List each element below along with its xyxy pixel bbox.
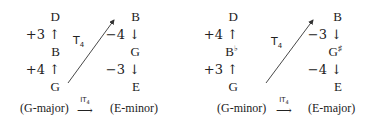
transform-label-sub: 4 xyxy=(80,41,84,49)
note-letter: G xyxy=(329,44,338,59)
transform-label-text: T xyxy=(271,35,278,48)
transform-label: T4 xyxy=(271,35,282,50)
operator-arrow: IT4 ⟶ xyxy=(72,96,98,115)
note-e: E xyxy=(132,78,140,96)
operator-arrow: IT4 ⟶ xyxy=(271,96,297,115)
note-g: G xyxy=(131,43,140,61)
target-chord-column: B −4 ↓ G −3 ↓ E xyxy=(108,8,140,96)
interval-down: −4 ↓ xyxy=(308,61,342,79)
diagram-g-major-to-e-minor: D +3 ↑ B +4 ↑ G T4 B −4 ↓ G −3 ↓ E (G-ma… xyxy=(0,0,180,127)
note-b: B xyxy=(131,8,140,26)
long-right-arrow-icon: ⟶ xyxy=(271,106,297,115)
transform-label-text: T xyxy=(73,34,80,47)
note-e: E xyxy=(334,78,342,96)
long-right-arrow-icon: ⟶ xyxy=(72,106,98,115)
transform-label-sub: 4 xyxy=(278,42,282,50)
source-key-caption: (G-minor) xyxy=(217,101,266,116)
diagram-g-minor-to-e-major: D +4 ↑ B♭ +3 ↑ G T4 B −3 ↓ G♯ −4 ↓ E (G-… xyxy=(180,0,367,127)
transform-label: T4 xyxy=(73,34,84,49)
target-key-caption: (E-minor) xyxy=(110,101,158,116)
note-b: B xyxy=(333,8,342,26)
target-chord-column: B −3 ↓ G♯ −4 ↓ E xyxy=(306,8,342,96)
target-key-caption: (E-major) xyxy=(308,101,355,116)
sharp-icon: ♯ xyxy=(338,44,342,53)
interval-down: −3 ↓ xyxy=(106,61,140,79)
note-g-sharp: G♯ xyxy=(329,43,342,61)
interval-down: −3 ↓ xyxy=(308,26,342,44)
source-key-caption: (G-major) xyxy=(20,101,69,116)
interval-down: −4 ↓ xyxy=(106,26,140,44)
